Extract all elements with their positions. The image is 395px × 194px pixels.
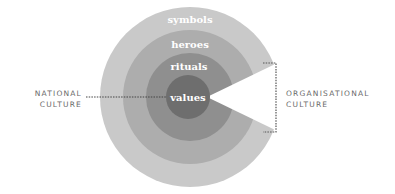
values-label: values (169, 92, 206, 103)
heroes-label: heroes (171, 39, 209, 50)
national-culture-label: NATIONAL CULTURE (16, 88, 82, 110)
national-culture-line2: CULTURE (16, 99, 82, 110)
organisational-culture-line1: ORGANISATIONAL (286, 88, 395, 99)
symbols-label: symbols (167, 14, 212, 25)
organisational-culture-line2: CULTURE (286, 99, 395, 110)
national-culture-line1: NATIONAL (16, 88, 82, 99)
rituals-label: rituals (171, 61, 208, 72)
organisational-culture-label: ORGANISATIONAL CULTURE (286, 88, 395, 110)
